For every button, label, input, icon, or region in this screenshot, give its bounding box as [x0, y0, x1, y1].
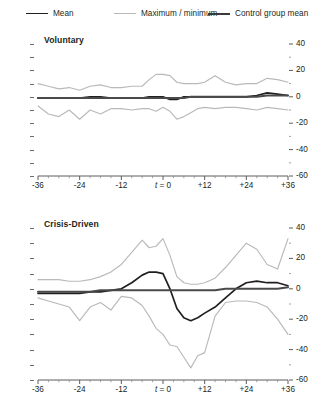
x-axis-label: +24	[239, 385, 253, 394]
legend-item-mean: Mean	[26, 4, 74, 18]
series-line-control-group-mean	[38, 287, 288, 292]
x-axis-label: -12	[115, 181, 127, 190]
series-line-maximum	[38, 239, 288, 285]
y-axis-label: 0	[296, 92, 301, 101]
y-axis-label: -40	[296, 345, 308, 354]
y-axis-tick-left	[30, 228, 34, 229]
series-line-mean	[38, 272, 288, 321]
x-axis-label: +24	[239, 181, 253, 190]
x-axis-label: -36	[32, 181, 44, 190]
y-axis-label: -20	[296, 314, 308, 323]
y-axis-label: 40	[296, 223, 305, 232]
y-axis-tick-left	[30, 319, 34, 320]
x-axis-label: -24	[74, 385, 86, 394]
y-axis-tick-left	[30, 123, 34, 124]
y-axis-tick-left	[30, 258, 34, 259]
y-axis-tick-left	[30, 136, 34, 137]
legend-item-control: Control group mean	[208, 4, 308, 18]
legend-label-control: Control group mean	[235, 9, 308, 18]
chart-legend: Mean Maximum / minimum Control group mea…	[0, 4, 329, 22]
y-axis-tick-left	[30, 380, 34, 381]
y-axis-tick-left	[30, 304, 34, 305]
x-axis-label: +12	[198, 385, 212, 394]
legend-swatch-mean-icon	[26, 13, 48, 14]
y-axis-label: 0	[296, 284, 301, 293]
x-axis-label: t = 0	[155, 385, 171, 394]
y-axis-tick-left	[30, 97, 34, 98]
x-axis-label: -12	[115, 385, 127, 394]
legend-label-mean: Mean	[53, 9, 74, 18]
y-axis-label: 40	[296, 39, 305, 48]
legend-swatch-control-icon	[208, 13, 230, 15]
y-axis-tick-left	[30, 84, 34, 85]
plot-area-crisis-driven	[38, 228, 288, 380]
y-axis-tick-left	[30, 163, 34, 164]
y-axis-label: 20	[296, 65, 305, 74]
y-axis-tick-left	[30, 44, 34, 45]
y-axis-tick-left	[30, 150, 34, 151]
series-line-maximum	[38, 74, 288, 90]
y-axis-tick-left	[30, 57, 34, 58]
x-axis-label: +36	[281, 385, 295, 394]
x-axis-label: +12	[198, 181, 212, 190]
series-line-minimum	[38, 296, 288, 367]
y-axis-tick-left	[30, 70, 34, 71]
y-axis-tick-left	[30, 176, 34, 177]
x-axis-label: -24	[74, 181, 86, 190]
y-axis-tick-left	[30, 334, 34, 335]
chart-figure: Mean Maximum / minimum Control group mea…	[0, 0, 329, 408]
legend-label-minmax: Maximum / minimum	[141, 9, 217, 18]
y-axis-label: -20	[296, 118, 308, 127]
y-axis-label: -40	[296, 145, 308, 154]
legend-swatch-minmax-icon	[114, 13, 136, 14]
x-axis-label: t = 0	[155, 181, 171, 190]
legend-item-minmax: Maximum / minimum	[114, 4, 217, 18]
panel-crisis-driven: Crisis-Driven 40200-20-40-60 -36-24-12t …	[0, 214, 329, 406]
series-line-minimum	[38, 106, 288, 119]
panel-voluntary: Voluntary 40200-20-40-60 -36-24-12t = 0+…	[0, 30, 329, 202]
plot-area-voluntary	[38, 44, 288, 176]
y-axis-tick-left	[30, 274, 34, 275]
y-axis-tick-left	[30, 350, 34, 351]
x-axis-label: +36	[281, 181, 295, 190]
y-axis-label: 20	[296, 253, 305, 262]
y-axis-tick-left	[30, 243, 34, 244]
y-axis-label: -60	[296, 171, 308, 180]
y-axis-tick-left	[30, 110, 34, 111]
y-axis-tick-left	[30, 365, 34, 366]
y-axis-label: -60	[296, 375, 308, 384]
x-axis-label: -36	[32, 385, 44, 394]
y-axis-tick-left	[30, 289, 34, 290]
